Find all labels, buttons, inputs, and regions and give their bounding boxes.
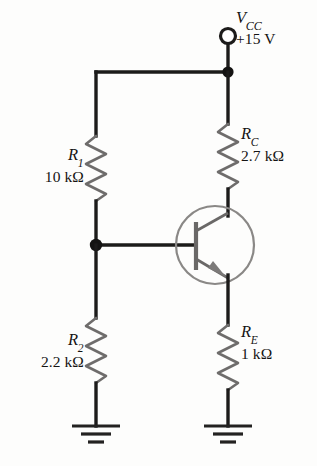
rc-value: 2.7 kΩ	[241, 147, 284, 165]
rc-symbol: RC	[241, 124, 284, 147]
vcc-terminal-group	[221, 29, 236, 73]
r2-resistor-zigzag	[86, 318, 106, 383]
rc-label: RC 2.7 kΩ	[241, 124, 284, 165]
transistor-collector-lead	[196, 213, 228, 231]
r2-label: R2 2.2 kΩ	[41, 330, 84, 371]
ground-right	[204, 426, 252, 442]
r1-resistor-zigzag	[86, 136, 106, 201]
re-resistor-zigzag	[218, 325, 238, 390]
base-node-group	[90, 239, 196, 251]
vcc-open-circle-terminal	[221, 29, 236, 44]
r1-value: 10 kΩ	[45, 168, 84, 186]
r2-value: 2.2 kΩ	[41, 353, 84, 371]
vcc-symbol: VCC	[236, 8, 276, 30]
r1-label: R1 10 kΩ	[45, 145, 84, 186]
re-label: RE 1 kΩ	[241, 322, 272, 363]
vcc-label: VCC +15 V	[236, 8, 276, 49]
r1-branch-group	[86, 72, 106, 245]
r2-branch-group	[86, 245, 106, 426]
r2-symbol: R2	[41, 330, 84, 353]
schematic-svg	[0, 0, 317, 466]
ground-left	[72, 426, 120, 442]
re-value: 1 kΩ	[241, 345, 272, 363]
transistor-emitter-arrow-icon	[208, 261, 226, 277]
rc-resistor-zigzag	[218, 124, 238, 189]
supply-rail-group	[96, 66, 234, 77]
re-symbol: RE	[241, 322, 272, 345]
rc-branch-group	[218, 72, 238, 216]
r1-symbol: R1	[45, 145, 84, 168]
re-branch-group	[218, 275, 238, 426]
circuit-diagram: VCC +15 V RC 2.7 kΩ RE 1 kΩ R1 10 kΩ R2 …	[0, 0, 317, 466]
